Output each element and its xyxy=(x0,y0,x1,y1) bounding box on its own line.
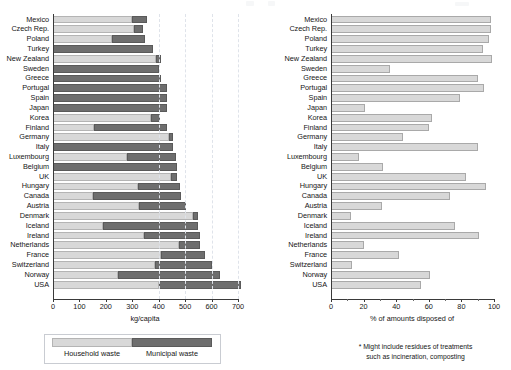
bar-segment-household xyxy=(53,133,169,141)
chart-row: Germany xyxy=(331,132,494,142)
bar xyxy=(53,212,198,220)
x-tick-label: 500 xyxy=(179,303,191,311)
bar xyxy=(331,84,484,92)
x-axis-title: % of amounts disposed of xyxy=(370,314,454,323)
legend-swatch-municipal xyxy=(132,338,212,347)
bar xyxy=(53,202,186,210)
category-label: Turkey xyxy=(305,45,327,53)
category-label: New Zealand xyxy=(7,55,49,63)
category-label: Belgium xyxy=(301,163,327,171)
bar-segment-municipal xyxy=(161,251,205,259)
x-tick-label: 60 xyxy=(425,303,433,311)
chart-row: Mexico xyxy=(331,15,494,25)
category-label: Norway xyxy=(303,271,327,279)
category-label: Hungary xyxy=(22,182,49,190)
gridline xyxy=(238,14,239,299)
chart-row: New Zealand xyxy=(331,54,494,64)
category-label: Canada xyxy=(302,192,327,200)
bar xyxy=(331,35,489,43)
chart-row: Belgium xyxy=(331,162,494,172)
category-label: Turkey xyxy=(27,45,49,53)
category-label: Italy xyxy=(314,143,327,151)
bar xyxy=(53,251,205,259)
bar xyxy=(53,114,160,122)
category-label: Korea xyxy=(30,114,49,122)
gridline xyxy=(212,14,213,299)
bar xyxy=(331,232,479,240)
chart-row: Austria xyxy=(53,201,238,211)
bar xyxy=(331,202,382,210)
x-tick-label: 200 xyxy=(100,303,112,311)
bar xyxy=(53,232,200,240)
bar xyxy=(331,173,466,181)
bar xyxy=(53,192,181,200)
category-label: Luxembourg xyxy=(9,153,49,161)
category-label: New Zealand xyxy=(285,55,327,63)
category-label: Luxembourg xyxy=(287,153,327,161)
bar-segment xyxy=(331,232,479,240)
chart-row: UK xyxy=(53,172,238,182)
bar xyxy=(53,16,147,24)
bar xyxy=(331,271,430,279)
bar xyxy=(331,222,455,230)
x-tick-label: 0 xyxy=(51,303,55,311)
x-tick-minor xyxy=(413,299,414,301)
bar-segment-municipal xyxy=(53,65,159,73)
chart-row: Hungary xyxy=(53,182,238,192)
category-label: Belgium xyxy=(23,163,49,171)
chart-row: Ireland xyxy=(53,231,238,241)
category-label: Portugal xyxy=(22,84,49,92)
chart-row: Turkey xyxy=(331,44,494,54)
chart-row: Luxembourg xyxy=(53,152,238,162)
category-label: Ireland xyxy=(305,232,327,240)
chart-row: Belgium xyxy=(53,162,238,172)
chart-row: Switzerland xyxy=(53,260,238,270)
bar-segment-household xyxy=(53,212,193,220)
bar-segment xyxy=(331,124,429,132)
chart-row: Italy xyxy=(331,142,494,152)
category-label: Finland xyxy=(303,124,327,132)
bar xyxy=(53,133,173,141)
chart-row: Korea xyxy=(53,113,238,123)
x-tick-label: 100 xyxy=(488,303,500,311)
category-label: Ireland xyxy=(27,232,49,240)
chart-row: Switzerland xyxy=(331,260,494,270)
bar-segment-household xyxy=(53,183,138,191)
bar-segment xyxy=(331,261,352,269)
bar-segment xyxy=(331,104,365,112)
left-chart-panel: MexicoCzech Rep.PolandTurkeyNew ZealandS… xyxy=(0,0,256,370)
x-tick-label: 80 xyxy=(457,303,465,311)
landfill-share-plot: MexicoCzech Rep.PolandTurkeyNew ZealandS… xyxy=(331,14,494,299)
bar xyxy=(331,261,352,269)
bar-segment-municipal xyxy=(134,25,143,33)
bar-segment-municipal xyxy=(118,271,220,279)
x-tick-label: 700 xyxy=(232,303,244,311)
category-label: Czech Rep. xyxy=(289,25,327,33)
bar-segment xyxy=(331,94,460,102)
x-tick-label: 40 xyxy=(392,303,400,311)
bar xyxy=(53,35,145,43)
bar-segment xyxy=(331,25,491,33)
bar-segment-municipal xyxy=(53,104,167,112)
x-axis-title: kg/capita xyxy=(130,314,159,323)
category-label: Iceland xyxy=(26,222,49,230)
chart-row: Korea xyxy=(331,113,494,123)
bar xyxy=(53,104,167,112)
bar-segment-household xyxy=(53,173,171,181)
category-label: Norway xyxy=(25,271,49,279)
bar xyxy=(331,212,351,220)
bar xyxy=(331,75,478,83)
waste-generation-plot: MexicoCzech Rep.PolandTurkeyNew ZealandS… xyxy=(53,14,238,299)
bar-segment-municipal xyxy=(193,212,198,220)
landfill-share-bars: MexicoCzech Rep.PolandTurkeyNew ZealandS… xyxy=(331,14,494,299)
bar-segment xyxy=(331,192,450,200)
chart-row: Czech Rep. xyxy=(331,24,494,34)
legend: Household waste Municipal waste xyxy=(44,334,221,364)
chart-row: USA xyxy=(331,280,494,290)
category-label: Switzerland xyxy=(290,261,327,269)
category-label: Netherlands xyxy=(10,241,49,249)
bar-segment xyxy=(331,153,359,161)
bar xyxy=(53,75,161,83)
bar-segment-household xyxy=(53,153,127,161)
category-label: Czech Rep. xyxy=(11,25,49,33)
